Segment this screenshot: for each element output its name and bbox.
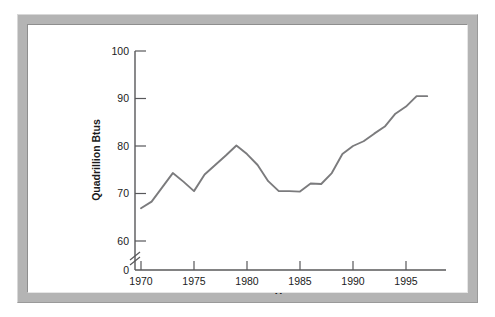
y-tick-label-90: 90 bbox=[117, 92, 129, 104]
y-tick-label-70: 70 bbox=[117, 187, 129, 199]
x-tick-label-1975: 1975 bbox=[182, 275, 206, 287]
line-chart: 060708090100 197019751980198519901995 Qu… bbox=[28, 25, 469, 294]
x-tick-label-1990: 1990 bbox=[341, 275, 365, 287]
x-tick-label-1995: 1995 bbox=[394, 275, 418, 287]
series-line-0 bbox=[141, 96, 427, 208]
data-series bbox=[141, 96, 427, 208]
chart-svg: 060708090100 197019751980198519901995 Qu… bbox=[28, 25, 469, 294]
y-axis: 060708090100 bbox=[111, 45, 146, 276]
figure-frame-inner: 060708090100 197019751980198519901995 Qu… bbox=[27, 24, 468, 293]
y-tick-label-100: 100 bbox=[111, 45, 129, 57]
x-tick-label-1980: 1980 bbox=[235, 275, 259, 287]
y-tick-label-80: 80 bbox=[117, 140, 129, 152]
x-axis: 197019751980198519901995 bbox=[129, 261, 446, 287]
y-axis-title: Quadrillion Btus bbox=[90, 119, 102, 201]
x-axis-title: Year bbox=[275, 291, 297, 294]
figure-frame: 060708090100 197019751980198519901995 Qu… bbox=[17, 14, 478, 303]
y-tick-label-0: 0 bbox=[123, 264, 129, 276]
y-tick-label-60: 60 bbox=[117, 235, 129, 247]
x-tick-label-1985: 1985 bbox=[288, 275, 312, 287]
x-tick-label-1970: 1970 bbox=[129, 275, 153, 287]
